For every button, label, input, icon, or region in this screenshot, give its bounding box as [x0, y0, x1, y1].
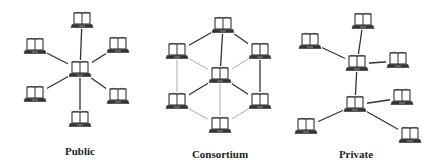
laptop-icon	[295, 118, 317, 133]
laptop-icon	[107, 37, 129, 52]
network-types-diagram	[0, 0, 438, 166]
laptop-icon	[69, 111, 91, 126]
laptop-icon	[391, 89, 413, 104]
laptop-icon	[249, 43, 271, 58]
private-nodes	[294, 12, 422, 144]
laptop-icon	[71, 12, 93, 27]
laptop-icon	[352, 13, 374, 28]
laptop-icon	[107, 88, 129, 103]
laptop-icon	[24, 86, 46, 101]
laptop-icon	[209, 117, 231, 132]
consortium-network-label: Consortium	[192, 148, 248, 160]
private-network-label: Private	[339, 148, 373, 160]
laptop-icon	[299, 33, 321, 48]
public-network-label: Public	[65, 145, 95, 157]
laptop-icon	[209, 67, 231, 82]
public-nodes	[23, 11, 130, 128]
laptop-icon	[346, 55, 368, 70]
laptop-icon	[166, 43, 188, 58]
laptop-icon	[24, 38, 46, 53]
laptop-icon	[166, 93, 188, 108]
laptop-icon	[399, 127, 421, 142]
consortium-nodes	[165, 16, 272, 134]
laptop-icon	[387, 52, 409, 67]
laptop-icon	[69, 61, 91, 76]
laptop-icon	[344, 96, 366, 111]
laptop-icon	[249, 93, 271, 108]
laptop-icon	[212, 17, 234, 32]
